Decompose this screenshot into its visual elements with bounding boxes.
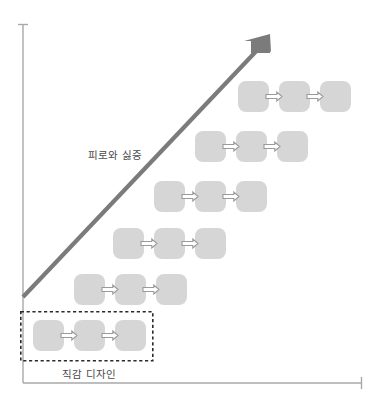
node-box: [279, 81, 310, 112]
node-box: [115, 320, 146, 351]
node-row: [238, 81, 351, 112]
node-box: [236, 131, 267, 162]
trend-label: 피로와 싫증: [88, 147, 143, 162]
node-box: [320, 81, 351, 112]
node-row: [195, 131, 308, 162]
node-box: [156, 274, 187, 305]
node-box: [154, 181, 185, 212]
node-row: [33, 320, 146, 351]
node-row: [74, 274, 187, 305]
node-box: [115, 274, 146, 305]
node-box: [195, 181, 226, 212]
node-box: [33, 320, 64, 351]
node-box: [195, 131, 226, 162]
trend-line: [23, 44, 263, 297]
node-box: [113, 228, 144, 259]
diagram-canvas: 피로와 싫증 직감 디자인: [0, 0, 374, 410]
node-row: [113, 228, 226, 259]
node-box: [154, 228, 185, 259]
node-box: [277, 131, 308, 162]
trend-arrow-group: [23, 34, 271, 297]
node-box: [238, 81, 269, 112]
node-box: [74, 274, 105, 305]
diagram-svg: [0, 0, 374, 410]
node-box: [236, 181, 267, 212]
highlight-group-label: 직감 디자인: [62, 366, 117, 381]
node-row: [154, 181, 267, 212]
node-box: [74, 320, 105, 351]
node-box: [195, 228, 226, 259]
